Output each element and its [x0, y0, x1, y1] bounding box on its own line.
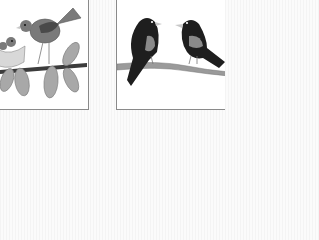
- two-birds-illustration: [117, 0, 225, 110]
- left-black-bird: [127, 18, 159, 86]
- left-picture-panel: [0, 0, 89, 110]
- right-black-bird: [182, 20, 225, 68]
- right-picture-panel: [116, 0, 225, 110]
- mother-bird-illustration: [0, 0, 89, 110]
